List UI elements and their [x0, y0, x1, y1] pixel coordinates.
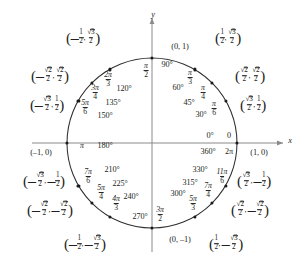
angle-degrees-150: 150° — [97, 112, 112, 120]
angle-degrees-210: 210° — [104, 166, 119, 174]
minus-sign: – — [248, 201, 256, 218]
denominator: 2 — [232, 243, 237, 252]
coordinate-label-225deg: (–√22, –√22) — [27, 200, 73, 218]
comma: , — [81, 239, 83, 248]
comma: , — [224, 33, 226, 42]
x-axis-label: x — [288, 137, 292, 145]
comma: , — [48, 205, 50, 214]
angle-degrees-60: 60° — [172, 84, 183, 92]
angle-degrees-90: 90° — [161, 61, 172, 69]
sqrt-2: √2 — [240, 67, 249, 74]
angle-degrees-330: 330° — [192, 166, 207, 174]
sqrt-3: √3 — [245, 96, 254, 103]
sqrt-3: √3 — [230, 235, 239, 242]
numerator: 7π — [204, 182, 213, 190]
circle-and-axes — [0, 0, 299, 269]
sqrt-3: √3 — [228, 29, 237, 36]
coordinate-label-60deg: (12, √32) — [215, 28, 241, 46]
numerator: 3π — [91, 84, 100, 92]
denominator: 2 — [94, 243, 99, 252]
numerator: 2π — [104, 71, 113, 79]
denominator: 4 — [201, 92, 206, 101]
minus-sign: – — [52, 201, 60, 218]
minus-sign: – — [254, 172, 262, 189]
comma: , — [248, 71, 250, 80]
sqrt-2: √2 — [252, 67, 261, 74]
denominator: 2 — [242, 75, 247, 84]
minus-sign: – — [71, 29, 79, 46]
angle-degrees-240: 240° — [123, 193, 138, 201]
denominator: 2 — [45, 104, 50, 113]
sqrt-2: √2 — [256, 201, 265, 208]
denominator: 6 — [212, 108, 217, 117]
y-axis-label: y — [151, 11, 155, 19]
denominator: 6 — [86, 176, 91, 185]
denominator: 4 — [99, 192, 104, 201]
sqrt-3: √3 — [36, 172, 45, 179]
denominator: 2 — [158, 214, 163, 223]
minus-sign: – — [48, 172, 56, 189]
minus-sign: – — [32, 201, 40, 218]
right-paren: ) — [266, 173, 271, 189]
angle-degrees-270: 270° — [132, 213, 147, 221]
denominator: 2 — [46, 75, 51, 84]
sqrt-2: √2 — [40, 201, 49, 208]
angle-radians-11pi-over-6: 11π6 — [216, 167, 228, 185]
comma: , — [219, 239, 221, 248]
coordinate-label-300deg: (12, –√32) — [209, 234, 243, 252]
right-paren: ) — [68, 202, 73, 218]
right-paren: ) — [60, 173, 65, 189]
angle-radians-3pi-over-2: 3π2 — [156, 205, 165, 223]
right-paren: ) — [101, 236, 106, 252]
angle-degrees-225: 225° — [112, 180, 127, 188]
angle-radians-5pi-over-6: 5π6 — [81, 98, 90, 116]
right-paren: ) — [260, 68, 265, 84]
angle-degrees-360: 360° — [200, 148, 215, 156]
comma: , — [44, 176, 46, 185]
coordinate-label-30deg: (√32, 12) — [240, 95, 266, 113]
angle-radians-pi-over-4: π4 — [201, 83, 206, 101]
denominator: 2 — [230, 37, 235, 46]
right-paren: ) — [236, 30, 241, 46]
numerator: 7π — [84, 168, 93, 176]
angle-radians-7pi-over-4: 7π4 — [204, 181, 213, 199]
numerator: 11π — [216, 168, 228, 176]
minus-sign: – — [69, 235, 77, 252]
denominator: 3 — [114, 203, 119, 212]
denominator: 2 — [254, 75, 259, 84]
denominator: 6 — [220, 176, 225, 185]
minus-sign: – — [28, 172, 36, 189]
right-paren: ) — [264, 202, 269, 218]
denominator: 2 — [247, 104, 252, 113]
angle-radians-5pi-over-4: 5π4 — [97, 183, 106, 201]
denominator: 2 — [89, 37, 94, 46]
coordinate-label-neg1-0: (–1, 0) — [30, 149, 52, 157]
denominator: 3 — [191, 203, 196, 212]
numerator: π — [144, 62, 149, 70]
numerator: 3π — [156, 206, 165, 214]
coordinate-label-0-1: (0, 1) — [171, 43, 189, 51]
coordinate-label-135deg: (–√22, √22) — [31, 66, 69, 84]
numerator: π — [188, 69, 193, 77]
unit-circle-figure: y x 90° 60° 45° 30° 0° 0 360° 2π π2 π3 π… — [0, 0, 299, 269]
angle-radians-7pi-over-6: 7π6 — [84, 167, 93, 185]
angle-degrees-315: 315° — [182, 179, 197, 187]
coordinate-label-330deg: (√32, –12) — [237, 171, 271, 189]
coordinate-label-150deg: (–√32, 12) — [30, 95, 64, 113]
angle-degrees-0: 0° — [206, 132, 213, 140]
coordinate-label-120deg: (–12, √32) — [66, 28, 100, 46]
comma: , — [253, 100, 255, 109]
angle-radians-pi-over-6: π6 — [212, 99, 217, 117]
angle-radians-pi-over-2: π2 — [144, 61, 149, 79]
minus-sign: – — [85, 235, 93, 252]
coordinate-label-45deg: (√22, √22) — [235, 66, 265, 84]
coordinate-label-0-neg1: (0, –1) — [169, 236, 191, 244]
angle-radians-2pi-over-3: 2π3 — [104, 70, 113, 88]
denominator: 2 — [257, 209, 262, 218]
denominator: 3 — [106, 79, 111, 88]
coordinate-label-240deg: (–12, –√32) — [64, 234, 106, 252]
minus-sign: – — [36, 67, 44, 84]
angle-radians-pi: π — [80, 142, 84, 150]
angle-degrees-120: 120° — [116, 85, 131, 93]
right-paren: ) — [59, 97, 64, 113]
